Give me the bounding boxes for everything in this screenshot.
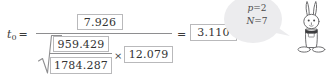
inner-numerator-value-box[interactable]: 959.429 [53,36,109,52]
callout-line-p: p=2 [230,2,284,15]
multiplication-sign: × [114,50,122,61]
lhs-equals-sign: = [19,28,28,41]
callout-n-value: 7 [262,16,268,26]
callout-p-value: 2 [261,3,267,13]
callout-n-operator: = [254,16,262,26]
multiplier-value-box[interactable]: 12.079 [124,46,173,63]
callout-text: p=2 N=7 [230,2,284,28]
equation-lhs-label: t0= [7,28,28,42]
equation-figure: t0= 7.926 959.429 1784.287 × 12.079 = 3.… [0,0,333,81]
numerator-value-box[interactable]: 7.926 [77,14,123,30]
inner-denominator-value-box[interactable]: 1784.287 [50,57,112,74]
inner-fraction-bar [50,53,112,54]
callout-p-operator: = [253,3,261,13]
lhs-subscript: 0 [11,33,16,42]
result-equals-sign: = [177,28,186,41]
rabbit-character-icon [294,0,330,60]
callout-line-n: N=7 [230,15,284,28]
